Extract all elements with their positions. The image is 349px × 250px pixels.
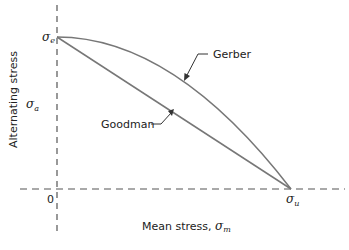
goodman-label: Goodman	[101, 118, 154, 131]
sigma-a-label: σa	[26, 97, 39, 113]
sigma-u-label: σu	[286, 192, 299, 208]
gerber-leader	[186, 54, 208, 77]
diagram-canvas: Gerber Goodman σe σa σu 0 Alternating st…	[0, 0, 349, 250]
goodman-line	[57, 37, 291, 189]
fatigue-diagram: Gerber Goodman σe σa σu 0 Alternating st…	[0, 0, 349, 250]
origin-label: 0	[47, 193, 54, 206]
y-axis-label: Alternating stress	[7, 51, 20, 148]
gerber-label: Gerber	[213, 48, 252, 61]
x-axis-label: Mean stress, σm	[142, 219, 231, 234]
sigma-e-label: σe	[42, 30, 55, 45]
